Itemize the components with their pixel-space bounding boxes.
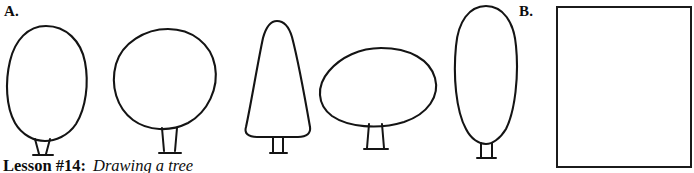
lesson-topic-text: Drawing a tree	[93, 156, 193, 173]
tree-2-canopy	[114, 29, 216, 129]
empty-practice-box[interactable]	[556, 6, 692, 168]
tree-5-trunk	[477, 143, 496, 158]
tree-4-canopy	[320, 48, 436, 127]
tree-2-group	[114, 29, 216, 153]
tree-3-group	[245, 21, 310, 153]
tree-5-canopy	[455, 6, 517, 144]
tree-shape-examples-figure	[0, 0, 530, 160]
tree-4-group	[320, 48, 436, 149]
tree-2-trunk	[159, 128, 181, 153]
tree-5-group	[455, 6, 517, 158]
lesson-caption: Lesson #14:Drawing a tree	[3, 157, 193, 173]
tree-3-trunk	[270, 137, 287, 153]
tree-3-canopy	[245, 21, 310, 137]
tree-illustrations-svg	[0, 0, 530, 160]
tree-1-canopy	[7, 26, 87, 141]
lesson-number-text: Lesson #14:	[3, 156, 86, 173]
tree-4-trunk	[364, 124, 388, 149]
worksheet-page: A.	[0, 0, 694, 173]
part-label-b: B.	[519, 4, 533, 19]
tree-1-group	[7, 26, 87, 155]
